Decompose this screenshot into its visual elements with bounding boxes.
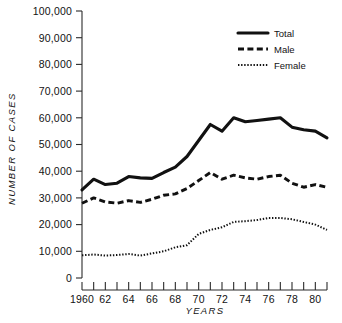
x-axis-tick-label: 78 [286,293,298,305]
y-axis-tick-label: 50,000 [39,138,72,150]
legend-label-male: Male [274,44,295,55]
legend-label-total: Total [274,28,294,39]
y-axis-tick-label: 30,000 [39,192,72,204]
chart-legend: TotalMaleFemale [238,28,306,71]
x-axis-tick-label: 70 [193,293,205,305]
y-axis-tick-label: 0 [66,272,72,284]
x-axis-tick-label: 74 [239,293,251,305]
x-axis-tick-label: 62 [99,293,111,305]
x-axis-tick-label: 72 [216,293,228,305]
y-axis-tick-label: 60,000 [39,112,72,124]
y-axis-tick-label: 100,000 [33,5,72,17]
chart-figure: 010,00020,00030,00040,00050,00060,00070,… [0,0,342,323]
x-axis-tick-label: 76 [263,293,275,305]
y-axis-tick-label: 20,000 [39,218,72,230]
series-line-total [82,118,327,190]
x-axis-title: YEARS [185,305,224,316]
data-series-group [82,118,327,256]
y-axis: 010,00020,00030,00040,00050,00060,00070,… [33,5,82,284]
x-axis: 196062646668707274767880 [70,282,327,305]
x-axis-tick-label: 1960 [70,293,94,305]
y-axis-tick-label: 10,000 [39,245,72,257]
y-axis-tick-label: 90,000 [39,32,72,44]
line-chart: 010,00020,00030,00040,00050,00060,00070,… [0,0,342,323]
legend-label-female: Female [274,60,306,71]
x-axis-tick-label: 66 [146,293,158,305]
y-axis-title: NUMBER OF CASES [6,92,17,205]
series-line-female [82,218,327,256]
y-axis-tick-label: 80,000 [39,58,72,70]
x-axis-tick-label: 64 [123,293,135,305]
y-axis-tick-label: 70,000 [39,85,72,97]
x-axis-tick-label: 80 [309,293,321,305]
series-line-male [82,173,327,204]
y-axis-tick-label: 40,000 [39,165,72,177]
x-axis-tick-label: 68 [169,293,181,305]
